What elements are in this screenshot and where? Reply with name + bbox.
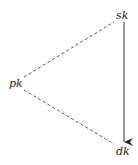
- node-pk-label: pk: [9, 77, 23, 90]
- edge-pk-sk: [24, 22, 114, 77]
- node-sk-label: sk: [116, 9, 129, 22]
- node-dk-label: dk: [116, 145, 130, 158]
- key-diagram: sk pk dk: [0, 0, 138, 165]
- edge-pk-dk: [24, 90, 114, 144]
